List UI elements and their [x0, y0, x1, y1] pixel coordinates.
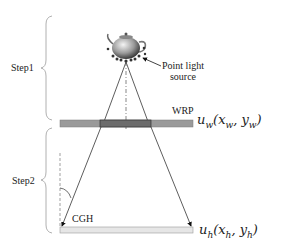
wrp-close: ) [257, 112, 262, 127]
point-source-pointer-arrow [143, 58, 161, 66]
cone-line-right-step1 [126, 62, 150, 127]
propagation-line-right-step2 [151, 127, 191, 226]
cgh-label: CGH [72, 213, 93, 224]
step1-brace [41, 16, 52, 120]
step1-label: Step1 [11, 62, 34, 73]
teapot-object-icon [107, 33, 147, 63]
cgh-field-equation: uh(xh, yh) [199, 222, 258, 240]
step2-label: Step2 [12, 175, 35, 186]
cgh-args: (x [213, 222, 225, 237]
wrp-comma: , y [233, 112, 249, 127]
wrp-field-sub: w [205, 120, 213, 130]
wrp-field-equation: uw(xw, yw) [197, 112, 262, 130]
point-light-label-line2: source [162, 71, 204, 82]
cgh-plane [60, 227, 193, 233]
point-light-label-line1: Point light [162, 60, 204, 71]
cgh-comma: , y [231, 222, 247, 237]
wrp-args-sub2: w [249, 120, 257, 130]
wrp-args: (x [213, 112, 225, 127]
wrp-active-region [100, 120, 151, 127]
step2-brace [41, 128, 52, 233]
propagation-line-left-step2 [62, 127, 101, 226]
cone-line-left-step1 [102, 62, 126, 127]
diffraction-angle-arc [60, 188, 71, 198]
wrp-label: WRP [172, 105, 194, 116]
point-light-source-label: Point light source [162, 60, 204, 82]
cgh-close: ) [253, 222, 258, 237]
